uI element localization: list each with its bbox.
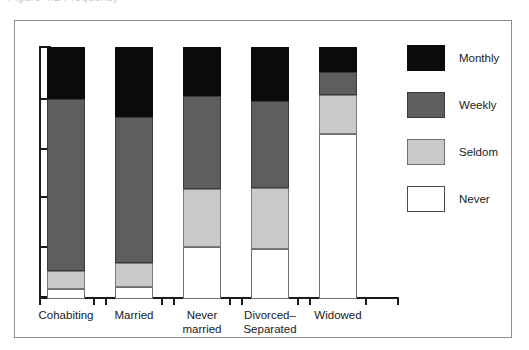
legend-item-seldom[interactable]: Seldom: [407, 139, 498, 165]
bar-segment-weekly[interactable]: [183, 96, 221, 189]
legend-label-monthly: Monthly: [459, 52, 499, 64]
x-axis-tick-9: [365, 297, 367, 305]
legend-label-weekly: Weekly: [459, 99, 497, 111]
bar-segment-seldom[interactable]: [319, 95, 357, 134]
bar-segment-weekly[interactable]: [47, 99, 85, 271]
bar-segment-seldom[interactable]: [115, 263, 153, 287]
bar-segment-weekly[interactable]: [115, 117, 153, 263]
bar-1[interactable]: [115, 21, 153, 299]
x-axis-label-line: Widowed: [283, 309, 393, 323]
bar-segment-never[interactable]: [115, 287, 153, 299]
x-axis-tick-10: [397, 297, 399, 305]
x-axis-tick-6: [241, 297, 243, 305]
legend-item-never[interactable]: Never: [407, 186, 490, 212]
x-axis-tick-2: [105, 297, 107, 305]
bar-3[interactable]: [251, 21, 289, 299]
bar-segment-weekly[interactable]: [319, 72, 357, 95]
legend-swatch-weekly: [407, 92, 445, 118]
bar-segment-seldom[interactable]: [183, 189, 221, 247]
legend-item-monthly[interactable]: Monthly: [407, 45, 499, 71]
bar-4[interactable]: [319, 21, 357, 299]
x-axis-tick-1: [93, 297, 95, 305]
bar-segment-never[interactable]: [319, 134, 357, 299]
legend-swatch-monthly: [407, 45, 445, 71]
bar-segment-monthly[interactable]: [115, 47, 153, 117]
bar-segment-seldom[interactable]: [47, 271, 85, 289]
x-axis-tick-5: [229, 297, 231, 305]
legend-label-never: Never: [459, 193, 490, 205]
bar-segment-monthly[interactable]: [183, 47, 221, 96]
bar-segment-monthly[interactable]: [47, 47, 85, 99]
x-axis-label-line: Separated: [215, 323, 325, 337]
figure-frame: CohabitingMarriedNevermarriedDivorced–Se…: [14, 20, 512, 338]
bar-segment-never[interactable]: [251, 249, 289, 299]
bar-segment-seldom[interactable]: [251, 188, 289, 249]
legend-swatch-seldom: [407, 139, 445, 165]
x-axis-tick-7: [297, 297, 299, 305]
cropped-caption-text: Figure 4.2 Frequency: [8, 0, 208, 3]
bar-segment-weekly[interactable]: [251, 101, 289, 188]
bar-segment-monthly[interactable]: [251, 47, 289, 101]
bar-segment-never[interactable]: [47, 289, 85, 299]
bar-0[interactable]: [47, 21, 85, 299]
x-axis-label-4: Widowed: [283, 309, 393, 323]
bar-segment-monthly[interactable]: [319, 47, 357, 72]
x-axis-tick-3: [161, 297, 163, 305]
bar-2[interactable]: [183, 21, 221, 299]
x-axis-tick-0: [39, 297, 41, 305]
chart-plot-area: CohabitingMarriedNevermarriedDivorced–Se…: [15, 21, 513, 339]
legend-item-weekly[interactable]: Weekly: [407, 92, 497, 118]
x-axis-tick-8: [309, 297, 311, 305]
legend-swatch-never: [407, 186, 445, 212]
y-axis-line: [39, 47, 41, 299]
bar-segment-never[interactable]: [183, 247, 221, 299]
x-axis-tick-4: [173, 297, 175, 305]
legend-label-seldom: Seldom: [459, 146, 498, 158]
